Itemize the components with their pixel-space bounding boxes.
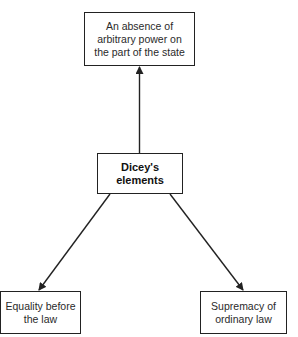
center-node-label: Dicey's elements (102, 161, 178, 187)
node-text-line: the part of the state (94, 46, 184, 59)
node-text-line: Supremacy of (211, 300, 276, 313)
node-equality-before-the-law: Equality before the law (0, 291, 81, 334)
node-absence-of-arbitrary-power: An absence of arbitrary power on the par… (84, 12, 195, 66)
diagram-canvas: An absence of arbitrary power on the par… (0, 0, 298, 337)
node-text-line: ordinary law (211, 313, 276, 326)
node-diceys-elements: Dicey's elements (97, 153, 183, 194)
node-text-line: An absence of (94, 20, 184, 33)
node-text-line: arbitrary power on (94, 33, 184, 46)
node-text-line: Equality before (5, 300, 75, 313)
arrow-center-to-bottom-right (170, 194, 243, 290)
node-text-line: the law (5, 313, 75, 326)
arrow-center-to-bottom-left (39, 194, 110, 290)
node-supremacy-of-ordinary-law: Supremacy of ordinary law (200, 291, 287, 334)
